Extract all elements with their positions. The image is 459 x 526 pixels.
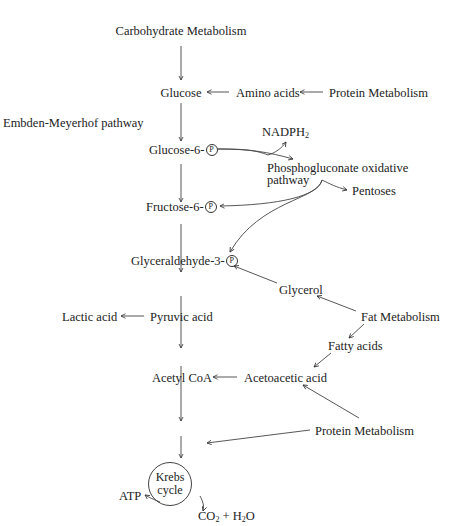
krebs-line2: cycle — [157, 484, 182, 497]
node-carbohydrate-metabolism: Carbohydrate Metabolism — [116, 24, 247, 38]
node-amino-acids: Amino acids — [236, 86, 300, 100]
node-fatty-acids: Fatty acids — [328, 339, 383, 353]
node-acetyl-coa: Acetyl CoA — [152, 371, 212, 385]
node-protein-metabolism-top: Protein Metabolism — [329, 86, 428, 100]
plus-h-text: + H — [219, 509, 241, 523]
node-atp: ATP — [119, 489, 141, 503]
label-embden-meyerhof: Embden-Meyerhof pathway — [3, 116, 144, 130]
phosphate-icon: P — [206, 144, 218, 156]
node-glucose-6-phosphate: Glucose-6-P — [149, 143, 218, 157]
node-pyruvic-acid: Pyruvic acid — [150, 310, 213, 324]
node-g3p-text: Glyceraldehyde-3- — [131, 254, 225, 268]
node-f6p-text: Fructose-6- — [146, 200, 204, 214]
node-pentoses: Pentoses — [352, 184, 396, 198]
h2o-tail: O — [246, 509, 255, 523]
node-phosphogluconate-line2: pathway — [267, 173, 309, 187]
node-lactic-acid: Lactic acid — [62, 310, 117, 324]
node-nadph2: NADPH2 — [262, 125, 309, 139]
node-protein-metabolism-bottom: Protein Metabolism — [315, 424, 414, 438]
node-krebs-cycle: Krebs cycle — [148, 462, 192, 506]
node-glucose: Glucose — [161, 86, 202, 100]
nadph-text: NADPH — [262, 125, 305, 139]
phosphate-icon: P — [226, 255, 238, 267]
node-glycerol: Glycerol — [279, 283, 323, 297]
node-glyceraldehyde-3-phosphate: Glyceraldehyde-3-P — [131, 254, 238, 268]
phosphate-icon: P — [205, 201, 217, 213]
node-fructose-6-phosphate: Fructose-6-P — [146, 200, 217, 214]
node-fat-metabolism: Fat Metabolism — [361, 310, 440, 324]
nadph-subscript: 2 — [305, 131, 309, 140]
co2-text: CO — [198, 509, 215, 523]
node-acetoacetic-acid: Acetoacetic acid — [244, 371, 327, 385]
node-co2-h2o: CO2 + H2O — [198, 509, 255, 523]
node-g6p-text: Glucose-6- — [149, 143, 205, 157]
